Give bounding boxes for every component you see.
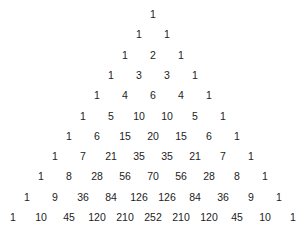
pascal-triangle: 1111211331146411510105116152015611721353…: [0, 0, 306, 228]
triangle-number: 1: [206, 89, 212, 101]
triangle-number: 84: [189, 191, 201, 203]
triangle-number: 35: [161, 150, 173, 162]
triangle-number: 120: [200, 211, 218, 223]
triangle-number: 36: [217, 191, 229, 203]
triangle-number: 28: [203, 170, 215, 182]
triangle-number: 3: [136, 69, 142, 81]
triangle-number: 5: [108, 110, 114, 122]
triangle-number: 21: [105, 150, 117, 162]
triangle-number: 35: [133, 150, 145, 162]
triangle-number: 21: [189, 150, 201, 162]
triangle-number: 4: [178, 89, 184, 101]
triangle-number: 5: [192, 110, 198, 122]
triangle-number: 6: [206, 130, 212, 142]
triangle-number: 120: [88, 211, 106, 223]
triangle-number: 1: [24, 191, 30, 203]
triangle-number: 9: [248, 191, 254, 203]
triangle-number: 15: [175, 130, 187, 142]
triangle-number: 1: [80, 110, 86, 122]
triangle-number: 1: [276, 191, 282, 203]
triangle-number: 7: [80, 150, 86, 162]
triangle-number: 1: [108, 69, 114, 81]
triangle-number: 8: [66, 170, 72, 182]
triangle-number: 10: [259, 211, 271, 223]
triangle-number: 45: [231, 211, 243, 223]
triangle-number: 2: [150, 49, 156, 61]
triangle-number: 7: [220, 150, 226, 162]
triangle-number: 6: [94, 130, 100, 142]
triangle-number: 1: [150, 8, 156, 20]
triangle-number: 15: [119, 130, 131, 142]
triangle-number: 10: [133, 110, 145, 122]
triangle-number: 210: [116, 211, 134, 223]
triangle-number: 8: [234, 170, 240, 182]
triangle-number: 10: [161, 110, 173, 122]
triangle-number: 1: [262, 170, 268, 182]
triangle-number: 36: [77, 191, 89, 203]
triangle-number: 6: [150, 89, 156, 101]
triangle-number: 10: [35, 211, 47, 223]
triangle-number: 252: [144, 211, 162, 223]
triangle-number: 56: [119, 170, 131, 182]
triangle-number: 56: [175, 170, 187, 182]
triangle-number: 1: [10, 211, 16, 223]
triangle-number: 1: [220, 110, 226, 122]
triangle-number: 1: [234, 130, 240, 142]
triangle-number: 1: [52, 150, 58, 162]
triangle-number: 126: [158, 191, 176, 203]
triangle-number: 84: [105, 191, 117, 203]
triangle-number: 1: [178, 49, 184, 61]
triangle-number: 1: [94, 89, 100, 101]
triangle-number: 210: [172, 211, 190, 223]
triangle-number: 1: [164, 28, 170, 40]
triangle-number: 1: [38, 170, 44, 182]
triangle-number: 28: [91, 170, 103, 182]
triangle-number: 20: [147, 130, 159, 142]
triangle-number: 3: [164, 69, 170, 81]
triangle-number: 1: [136, 28, 142, 40]
triangle-number: 1: [248, 150, 254, 162]
triangle-number: 1: [290, 211, 296, 223]
triangle-number: 1: [192, 69, 198, 81]
triangle-number: 9: [52, 191, 58, 203]
triangle-number: 70: [147, 170, 159, 182]
triangle-number: 126: [130, 191, 148, 203]
triangle-number: 1: [66, 130, 72, 142]
triangle-number: 45: [63, 211, 75, 223]
triangle-number: 1: [122, 49, 128, 61]
triangle-number: 4: [122, 89, 128, 101]
